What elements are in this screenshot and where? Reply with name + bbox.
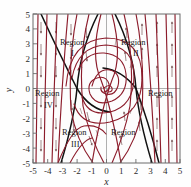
y-tick-label: 0 xyxy=(26,84,31,94)
region-3-numeral: III xyxy=(71,139,80,149)
region-1-label: Region xyxy=(60,37,85,47)
x-tick-label: -2 xyxy=(73,166,81,176)
x-tick-label: -1 xyxy=(88,166,96,176)
x-tick-label: -5 xyxy=(29,166,37,176)
region-3-label: Region xyxy=(62,127,87,137)
y-tick-label: 4 xyxy=(26,24,31,34)
y-tick-label: 2 xyxy=(26,54,31,64)
x-tick-label: 5 xyxy=(178,166,183,176)
region-6-label: Region xyxy=(148,88,173,98)
region-2-numeral: II xyxy=(133,48,139,58)
phase-portrait-figure: Region I Region II Region III Region IV … xyxy=(0,0,191,187)
x-tick-label: 2 xyxy=(134,166,139,176)
x-tick-label: -4 xyxy=(44,166,52,176)
region-1-numeral: I xyxy=(71,48,74,58)
y-tick-label: -4 xyxy=(23,144,31,154)
region-5-label: Region xyxy=(111,127,136,137)
y-tick-label: 5 xyxy=(26,10,31,20)
x-tick-label: 3 xyxy=(148,166,153,176)
region-4-numeral: IV xyxy=(44,100,54,110)
region-4-label: Region xyxy=(35,88,60,98)
y-tick-label: -3 xyxy=(23,129,31,139)
x-tick-label: 4 xyxy=(163,166,168,176)
x-tick-labels: -5 -4 -3 -2 -1 0 1 2 3 4 5 xyxy=(29,166,183,176)
x-tick-label: -3 xyxy=(59,166,67,176)
x-tick-label: 1 xyxy=(119,166,124,176)
y-tick-label: -1 xyxy=(23,99,31,109)
x-axis-title: x xyxy=(103,176,109,187)
x-tick-label: 0 xyxy=(104,166,109,176)
plot-svg: Region I Region II Region III Region IV … xyxy=(0,0,191,187)
y-tick-label: 1 xyxy=(26,69,31,79)
region-2-label: Region xyxy=(121,37,146,47)
y-tick-label: -2 xyxy=(23,114,31,124)
y-axis-title: y xyxy=(3,87,14,93)
y-tick-label: 3 xyxy=(26,39,31,49)
y-tick-labels: 5 4 3 2 1 0 -1 -2 -3 -4 -5 xyxy=(23,10,31,169)
